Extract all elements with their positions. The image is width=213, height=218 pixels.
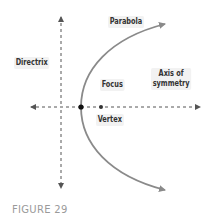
vertex-point	[78, 104, 83, 109]
parabola-label: Parabola	[108, 16, 144, 28]
vertex-label: Vertex	[96, 114, 124, 126]
axis-label-line2: symmetry	[153, 79, 190, 89]
focus-label: Focus	[100, 79, 124, 91]
axis-label-line1: Axis of	[153, 69, 190, 79]
figure-caption: FIGURE 29	[12, 204, 68, 215]
parabola-curve-upper	[81, 24, 165, 107]
axis-of-symmetry-label: Axis of symmetry	[151, 68, 191, 90]
focus-point	[99, 105, 103, 109]
directrix-label: Directrix	[14, 57, 49, 69]
parabola-diagram	[0, 0, 213, 218]
